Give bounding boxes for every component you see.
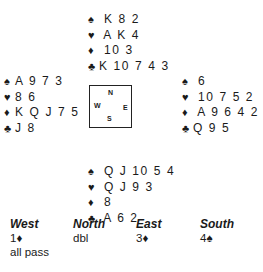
bid-north <box>73 245 136 259</box>
spade-icon: ♠ <box>88 12 99 28</box>
west-hearts: ♥8 6 <box>4 90 79 106</box>
west-diamonds: ♦K Q J 7 5 <box>4 105 79 121</box>
header-south: South <box>200 217 263 231</box>
west-hand: ♠A 9 7 3 ♥8 6 ♦K Q J 7 5 ♣J 8 <box>4 74 79 136</box>
south-spades: ♠ Q J 10 5 4 <box>88 164 175 180</box>
heart-icon: ♥ <box>4 90 15 106</box>
diamond-icon: ♦ <box>88 43 99 59</box>
east-diamonds: ♦ A 9 6 4 2 <box>182 105 259 121</box>
east-hearts: ♥ 10 7 5 2 <box>182 90 259 106</box>
west-spades: ♠A 9 7 3 <box>4 74 79 90</box>
spade-icon: ♠ <box>4 74 15 90</box>
north-hand: ♠ K 8 2 ♥ A K 4 ♦ 10 3 ♣K 10 7 4 3 <box>88 12 170 74</box>
compass-north: N <box>108 89 113 96</box>
header-east: East <box>136 217 200 231</box>
east-spades: ♠ 6 <box>182 74 259 90</box>
bid-south <box>200 245 263 259</box>
south-hearts: ♥ Q J 9 3 <box>88 180 175 196</box>
header-west: West <box>10 217 73 231</box>
bid-west: 1♦ <box>10 231 73 245</box>
bid-east: 3♦ <box>136 231 200 245</box>
spade-icon: ♠ <box>88 164 99 180</box>
club-icon: ♣ <box>182 121 193 137</box>
compass-box: N W E S <box>89 85 132 128</box>
diamond-icon: ♦ <box>88 195 99 211</box>
east-clubs: ♣Q 9 5 <box>182 121 259 137</box>
auction-header: West North East South <box>10 217 263 231</box>
auction-row: 1♦ dbl 3♦ 4♠ <box>10 231 263 245</box>
north-hearts: ♥ A K 4 <box>88 28 170 44</box>
auction-table: West North East South 1♦ dbl 3♦ 4♠ all p… <box>10 217 263 259</box>
auction-row: all pass <box>10 245 263 259</box>
north-diamonds: ♦ 10 3 <box>88 43 170 59</box>
south-diamonds: ♦ 8 <box>88 195 175 211</box>
compass-west: W <box>94 102 101 109</box>
diamond-icon: ♦ <box>182 105 193 121</box>
compass-east: E <box>123 104 128 111</box>
bid-north: dbl <box>73 231 136 245</box>
compass-south: S <box>107 115 112 122</box>
east-hand: ♠ 6 ♥ 10 7 5 2 ♦ A 9 6 4 2 ♣Q 9 5 <box>182 74 259 136</box>
bid-west: all pass <box>10 245 73 259</box>
header-north: North <box>73 217 136 231</box>
club-icon: ♣ <box>4 121 15 137</box>
bid-south: 4♠ <box>200 231 263 245</box>
heart-icon: ♥ <box>182 90 193 106</box>
spade-icon: ♠ <box>182 74 193 90</box>
heart-icon: ♥ <box>88 180 99 196</box>
north-clubs: ♣K 10 7 4 3 <box>88 59 170 75</box>
bid-east <box>136 245 200 259</box>
heart-icon: ♥ <box>88 28 99 44</box>
club-icon: ♣ <box>88 59 99 75</box>
diamond-icon: ♦ <box>4 105 15 121</box>
north-spades: ♠ K 8 2 <box>88 12 170 28</box>
west-clubs: ♣J 8 <box>4 121 79 137</box>
